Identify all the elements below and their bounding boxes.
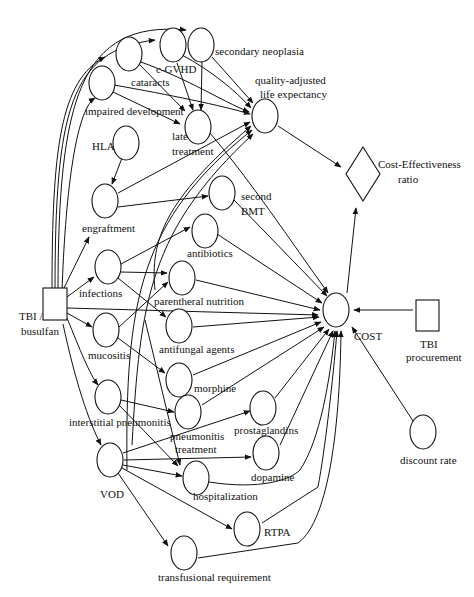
label-tbi: TBI / [19, 310, 43, 322]
node-cost: COST [323, 293, 382, 342]
node-mucositis: mucositis [88, 313, 130, 361]
node-second-bmt: second BMT [209, 176, 272, 217]
label-discount-rate: discount rate [400, 454, 457, 466]
label-infections: infections [79, 287, 122, 299]
label-morphine: morphine [194, 382, 236, 394]
label-secondary-neoplasia: secondary neoplasia [215, 45, 304, 57]
label-cost: COST [354, 330, 382, 342]
label-hospitalization: hospitalization [193, 490, 258, 502]
label-pneumonitis-treatment-word: treatment [175, 443, 217, 455]
label-tbi-procurement-1: TBI [420, 338, 438, 350]
label-transfusional-requirement: transfusional requirement [158, 571, 271, 583]
influence-diagram: cataracts c-GVHD secondary neoplasia imp… [0, 0, 474, 597]
node-hla: HLA [92, 126, 139, 160]
label-tbi-procurement-2: procurement [406, 351, 462, 363]
node-dopamine: dopamine [251, 436, 294, 483]
label-bmt: BMT [241, 205, 265, 217]
node-secondary-neoplasia: secondary neoplasia [188, 28, 304, 62]
label-rtpa: RTPA [264, 526, 291, 538]
node-vod: VOD [97, 443, 124, 500]
node-hospitalization: hospitalization [183, 461, 258, 502]
label-cost-effectiveness: Cost-Effectiveness [378, 158, 461, 170]
node-engraftment: engraftment [82, 184, 135, 234]
node-infections: infections [79, 250, 122, 299]
label-impaired-development: impaired development [85, 105, 184, 117]
node-parenteral-nutrition: parentheral nutrition [154, 261, 245, 307]
label-vod: VOD [100, 488, 124, 500]
label-dopamine: dopamine [251, 471, 294, 483]
label-c-gvhd: c-GVHD [156, 63, 196, 75]
label-antibiotics: antibiotics [187, 247, 233, 259]
label-mucositis: mucositis [88, 349, 130, 361]
node-morphine: morphine [166, 363, 236, 397]
label-late: late [172, 130, 188, 142]
label-quality-adjusted: quality-adjusted [255, 74, 326, 86]
node-antifungal-agents: antifungal agents [159, 309, 234, 355]
label-second: second [241, 190, 272, 202]
label-pneumonitis: pneumonitis [170, 430, 224, 442]
node-antibiotics: antibiotics [187, 214, 233, 259]
node-rtpa: RTPA [234, 512, 291, 546]
label-engraftment: engraftment [82, 222, 135, 234]
node-tbi-busulfan: TBI / busulfan [19, 288, 67, 337]
node-pneumonitis-treatment: pneumonitis treatment [170, 395, 224, 455]
label-parenteral-nutrition: parentheral nutrition [154, 295, 245, 307]
label-hla: HLA [92, 140, 115, 152]
label-ratio: ratio [398, 173, 419, 185]
label-life-expectancy: life expectancy [260, 88, 327, 100]
label-treatment: treatment [172, 145, 214, 157]
node-discount-rate: discount rate [400, 415, 457, 466]
label-busulfan: busulfan [21, 325, 59, 337]
node-quality-adjusted-life-expectancy: quality-adjusted life expectancy [252, 74, 327, 133]
node-tbi-procurement: TBI procurement [406, 300, 462, 363]
label-antifungal-agents: antifungal agents [159, 343, 234, 355]
node-cost-effectiveness-ratio: Cost-Effectiveness ratio [346, 147, 461, 201]
label-cataracts: cataracts [131, 76, 169, 88]
label-prostaglandins: prostaglandins [234, 424, 298, 436]
label-interstitial-pneumonitis: interstitial pneumonitis [69, 416, 171, 428]
node-late-treatment: late treatment [172, 110, 214, 157]
